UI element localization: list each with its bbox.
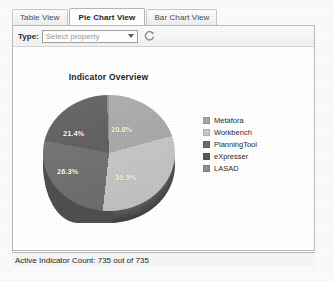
status-bar: Active Indicator Count: 735 out of 735: [12, 252, 315, 267]
chart-legend: Metafora Workbench PlanningTool eXpresse…: [203, 115, 257, 175]
tab-bar-chart-view[interactable]: Bar Chart View: [146, 9, 217, 26]
legend-label-metafora: Metafora: [214, 116, 244, 125]
pie-slice-label-expresser: 21.4%: [63, 129, 84, 138]
tab-bar-chart-view-label: Bar Chart View: [154, 13, 209, 22]
tab-table-view-label: Table View: [20, 13, 60, 22]
tab-pie-chart-view-label: Pie Chart View: [79, 13, 136, 22]
pie-chart-view-screen: Table View Pie Chart View Bar Chart View…: [0, 0, 333, 281]
legend-item-metafora: Metafora: [203, 115, 257, 126]
pie-slice-label-workbench: 30.9%: [115, 173, 136, 182]
legend-label-workbench: Workbench: [214, 128, 252, 137]
legend-item-expresser: eXpresser: [203, 151, 257, 162]
pie-slice-label-planningtool: 26.3%: [57, 167, 78, 176]
chart-toolbar: Type: Select property: [13, 26, 314, 47]
chart-title: Indicator Overview: [13, 72, 314, 82]
legend-swatch-icon: [203, 153, 210, 160]
legend-swatch-icon: [203, 165, 210, 172]
pie-chart: 20.8% 30.9% 26.3% 21.4%: [43, 95, 175, 227]
chevron-down-icon: [128, 34, 134, 38]
pie-slice-label-metafora: 20.8%: [111, 125, 132, 134]
legend-item-planningtool: PlanningTool: [203, 139, 257, 150]
legend-label-lasad: LASAD: [214, 164, 239, 173]
legend-label-expresser: eXpresser: [214, 152, 248, 161]
refresh-icon[interactable]: [144, 30, 156, 42]
property-select[interactable]: Select property: [42, 30, 138, 43]
chart-canvas: Indicator Overview 20.8% 30.9% 26.3% 21.…: [13, 47, 314, 250]
legend-item-lasad: LASAD: [203, 163, 257, 174]
legend-swatch-icon: [203, 141, 210, 148]
legend-swatch-icon: [203, 129, 210, 136]
property-select-value: Select property: [43, 32, 100, 41]
legend-swatch-icon: [203, 117, 210, 124]
legend-label-planningtool: PlanningTool: [214, 140, 257, 149]
tab-table-view[interactable]: Table View: [12, 9, 68, 26]
active-indicator-count: Active Indicator Count: 735 out of 735: [15, 256, 149, 265]
type-label: Type:: [18, 32, 39, 41]
tab-pie-chart-view[interactable]: Pie Chart View: [69, 8, 146, 26]
pie-slices: [43, 95, 175, 211]
legend-item-workbench: Workbench: [203, 127, 257, 138]
view-tabs: Table View Pie Chart View Bar Chart View: [12, 9, 218, 26]
chart-panel: Type: Select property Indicator Overview: [12, 25, 315, 251]
